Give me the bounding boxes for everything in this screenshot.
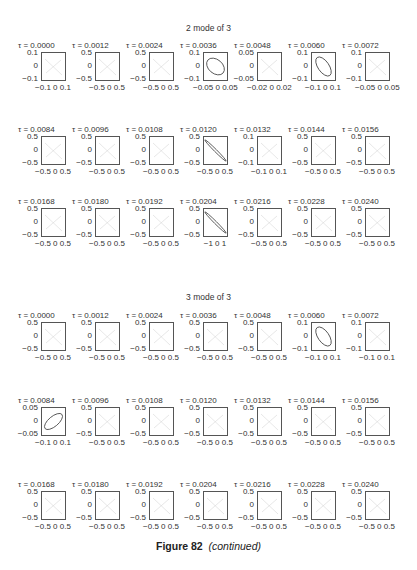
y-tick-bottom: −0.1 [164, 74, 200, 83]
y-tick-mid: 0 [326, 217, 362, 226]
y-tick-bottom: −0.1 [218, 158, 254, 167]
y-tick-top: 0.5 [56, 403, 92, 412]
y-tick-bottom: −0.5 [2, 230, 38, 239]
subplot: τ = 0.00960.50−0.5−0.5 0 0.5 [56, 125, 110, 185]
y-tick-mid: 0 [272, 217, 308, 226]
faint-curve [366, 137, 389, 164]
figure-caption: Figure 82 (continued) [0, 540, 417, 552]
subplot: τ = 0.01800.50−0.5−0.5 0 0.5 [56, 480, 110, 540]
y-tick-bottom: −0.5 [164, 513, 200, 522]
y-tick-bottom: −0.05 [218, 74, 254, 83]
y-tick-mid: 0 [110, 416, 146, 425]
plot-area [365, 491, 390, 520]
subplot: τ = 0.00000.10−0.1−0.1 0 0.1 [2, 41, 56, 101]
y-tick-mid: 0 [110, 500, 146, 509]
y-tick-mid: 0 [218, 61, 254, 70]
y-tick-mid: 0 [326, 331, 362, 340]
y-tick-bottom: −0.5 [56, 429, 92, 438]
subplot: τ = 0.00600.10−0.1−0.1 0 0.1 [272, 311, 326, 371]
y-tick-top: 0.5 [110, 48, 146, 57]
subplot: τ = 0.01560.50−0.5−0.5 0 0.5 [326, 125, 380, 185]
subplot: τ = 0.00240.50−0.5−0.5 0 0.5 [110, 311, 164, 371]
y-tick-mid: 0 [218, 500, 254, 509]
y-tick-bottom: −0.1 [2, 74, 38, 83]
plot-area [365, 52, 390, 81]
subplot: τ = 0.01200.50−0.5−0.5 0 0.5 [164, 125, 218, 185]
y-tick-mid: 0 [56, 416, 92, 425]
y-tick-top: 0.5 [326, 487, 362, 496]
y-tick-top: 0.5 [110, 487, 146, 496]
y-tick-top: 0.1 [326, 318, 362, 327]
subplot: τ = 0.00360.10−0.1−0.05 0 0.05 [164, 41, 218, 101]
y-tick-top: 0.5 [164, 204, 200, 213]
y-tick-bottom: −0.5 [272, 158, 308, 167]
y-tick-bottom: −0.5 [2, 513, 38, 522]
y-tick-mid: 0 [218, 331, 254, 340]
subplot: τ = 0.00480.50−0.5−0.5 0 0.5 [218, 311, 272, 371]
y-tick-mid: 0 [110, 61, 146, 70]
caption-note: (continued) [209, 540, 262, 552]
y-tick-mid: 0 [326, 61, 362, 70]
subplot: τ = 0.01920.50−0.5−0.5 0 0.5 [110, 197, 164, 257]
y-tick-mid: 0 [218, 416, 254, 425]
faint-curve [366, 492, 389, 519]
subplot: τ = 0.00360.50−0.5−0.5 0 0.5 [164, 311, 218, 371]
y-tick-bottom: −0.5 [56, 230, 92, 239]
y-tick-mid: 0 [56, 145, 92, 154]
y-tick-bottom: −0.1 [272, 74, 308, 83]
y-tick-bottom: −0.5 [2, 158, 38, 167]
y-tick-mid: 0 [272, 500, 308, 509]
y-tick-top: 0.5 [110, 318, 146, 327]
subplot: τ = 0.01680.50−0.5−0.5 0 0.5 [2, 197, 56, 257]
subplot: τ = 0.02040.50−0.5−1 0 1 [164, 197, 218, 257]
subplot: τ = 0.01080.50−0.5−0.5 0 0.5 [110, 396, 164, 456]
y-tick-bottom: −0.5 [164, 429, 200, 438]
y-tick-mid: 0 [110, 331, 146, 340]
y-tick-bottom: −0.5 [272, 513, 308, 522]
subplot: τ = 0.02280.50−0.5−0.5 0 0.5 [272, 197, 326, 257]
y-tick-top: 0.5 [272, 132, 308, 141]
y-tick-top: 0.1 [218, 132, 254, 141]
y-tick-bottom: −0.5 [164, 230, 200, 239]
subplot: τ = 0.01200.50−0.5−0.5 0 0.5 [164, 396, 218, 456]
y-tick-mid: 0 [218, 145, 254, 154]
y-tick-mid: 0 [164, 217, 200, 226]
y-tick-top: 0.1 [326, 48, 362, 57]
y-tick-bottom: −0.1 [326, 74, 362, 83]
y-tick-bottom: −0.5 [164, 158, 200, 167]
subplot: τ = 0.00720.10−0.1−0.1 0 0.1 [326, 311, 380, 371]
y-tick-bottom: −0.5 [164, 344, 200, 353]
y-tick-bottom: −0.5 [326, 429, 362, 438]
y-tick-top: 0.5 [164, 403, 200, 412]
subplot: τ = 0.01920.50−0.5−0.5 0 0.5 [110, 480, 164, 540]
y-tick-bottom: −0.5 [110, 230, 146, 239]
x-ticks: −0.5 0 0.5 [355, 239, 399, 248]
y-tick-mid: 0 [272, 416, 308, 425]
x-ticks: −0.5 0 0.5 [355, 522, 399, 531]
subplot: τ = 0.00960.50−0.5−0.5 0 0.5 [56, 396, 110, 456]
y-tick-mid: 0 [2, 331, 38, 340]
subplot: τ = 0.01800.50−0.5−0.5 0 0.5 [56, 197, 110, 257]
y-tick-top: 0.5 [164, 487, 200, 496]
y-tick-top: 0.5 [2, 204, 38, 213]
y-tick-bottom: −0.5 [110, 158, 146, 167]
y-tick-top: 0.05 [2, 403, 38, 412]
y-tick-mid: 0 [164, 331, 200, 340]
y-tick-mid: 0 [164, 500, 200, 509]
y-tick-bottom: −0.5 [56, 513, 92, 522]
y-tick-mid: 0 [2, 416, 38, 425]
y-tick-bottom: −0.1 [326, 344, 362, 353]
y-tick-top: 0.5 [2, 487, 38, 496]
x-ticks: −0.5 0 0.5 [355, 438, 399, 447]
y-tick-bottom: −0.5 [110, 513, 146, 522]
y-tick-bottom: −0.5 [110, 344, 146, 353]
y-tick-top: 0.5 [56, 132, 92, 141]
subplot: τ = 0.01440.50−0.5−0.5 0 0.5 [272, 125, 326, 185]
y-tick-mid: 0 [2, 61, 38, 70]
subplot: τ = 0.01080.50−0.5−0.5 0 0.5 [110, 125, 164, 185]
plot-area [365, 208, 390, 237]
y-tick-top: 0.5 [272, 487, 308, 496]
y-tick-bottom: −0.1 [272, 344, 308, 353]
subplot: τ = 0.01680.50−0.5−0.5 0 0.5 [2, 480, 56, 540]
y-tick-mid: 0 [272, 61, 308, 70]
